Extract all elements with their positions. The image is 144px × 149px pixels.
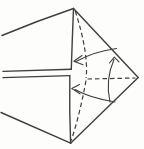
diagram-canvas (0, 0, 144, 149)
paper-slit-lower-line (3, 76, 70, 78)
valley-crease-horizontal (88, 78, 136, 79)
origami-diagram (0, 0, 144, 149)
paper-edge-lower-flap (70, 76, 71, 144)
paper-edge-upper-flap (71, 9, 73, 70)
paper-slit-upper-line (3, 69, 71, 71)
fold-arrow-up-icon (108, 57, 119, 102)
paper-edge-upper-left (2, 9, 74, 36)
paper-edge-lower-left (1, 113, 71, 144)
paper-edge-lower-right (71, 78, 139, 144)
